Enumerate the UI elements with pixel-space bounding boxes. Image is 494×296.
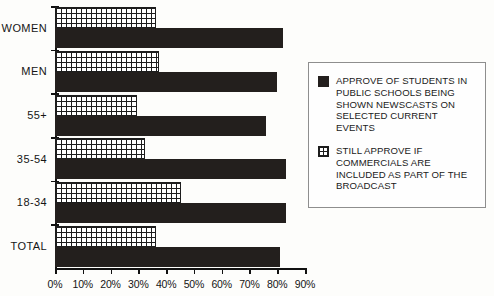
x-tick <box>138 268 140 274</box>
chart-legend: APPROVE OF STUDENTS IN PUBLIC SCHOOLS BE… <box>308 62 486 208</box>
bar-approve <box>55 247 280 267</box>
x-tick-label: 20% <box>100 278 120 290</box>
bar-approve <box>55 116 266 136</box>
x-tick-label: 60% <box>211 278 231 290</box>
bar-chart: WOMENMEN55+35-5418-34TOTAL 0%10%20%30%40… <box>0 0 494 296</box>
legend-item-approve: APPROVE OF STUDENTS IN PUBLIC SCHOOLS BE… <box>318 75 480 134</box>
legend-label-still-approve: STILL APPROVE IF COMMERCIALS ARE INCLUDE… <box>336 145 467 192</box>
plot-area: WOMENMEN55+35-5418-34TOTAL 0%10%20%30%40… <box>55 6 305 272</box>
x-tick <box>249 268 251 274</box>
bar-row: MEN <box>55 50 305 94</box>
x-tick <box>277 268 279 274</box>
category-label: MEN <box>21 65 47 77</box>
category-label: 55+ <box>27 109 47 121</box>
x-tick-label: 10% <box>73 278 93 290</box>
bar-approve <box>55 203 286 223</box>
bar-still-approve <box>55 51 159 72</box>
x-tick <box>166 268 168 274</box>
bar-still-approve <box>55 138 145 159</box>
bar-still-approve <box>55 182 181 203</box>
category-label: WOMEN <box>2 22 47 34</box>
category-label: 35-54 <box>17 153 47 165</box>
bar-still-approve <box>55 95 137 116</box>
bar-approve <box>55 72 277 92</box>
x-tick <box>222 268 224 274</box>
bar-row: 55+ <box>55 93 305 137</box>
x-tick <box>305 268 307 274</box>
x-tick-label: 50% <box>184 278 204 290</box>
x-tick-label: 80% <box>267 278 287 290</box>
x-tick-label: 30% <box>128 278 148 290</box>
category-label: 18-34 <box>17 196 47 208</box>
bar-still-approve <box>55 7 156 28</box>
bar-row: WOMEN <box>55 6 305 50</box>
x-tick-label: 90% <box>295 278 315 290</box>
bar-row: TOTAL <box>55 224 305 268</box>
legend-swatch-grid-icon <box>318 146 329 157</box>
legend-swatch-solid-icon <box>318 76 329 87</box>
x-tick-label: 0% <box>48 278 63 290</box>
bar-still-approve <box>55 226 156 247</box>
x-tick <box>83 268 85 274</box>
x-axis-line <box>55 268 307 270</box>
legend-item-still-approve: STILL APPROVE IF COMMERCIALS ARE INCLUDE… <box>318 145 480 192</box>
category-label: TOTAL <box>11 240 47 252</box>
bar-approve <box>55 28 283 48</box>
x-tick <box>111 268 113 274</box>
bar-approve <box>55 159 286 179</box>
x-tick-label: 40% <box>156 278 176 290</box>
legend-label-approve: APPROVE OF STUDENTS IN PUBLIC SCHOOLS BE… <box>336 75 467 134</box>
bar-row: 18-34 <box>55 181 305 225</box>
bar-row: 35-54 <box>55 137 305 181</box>
x-tick <box>194 268 196 274</box>
x-tick <box>55 268 57 274</box>
x-tick-label: 70% <box>239 278 259 290</box>
